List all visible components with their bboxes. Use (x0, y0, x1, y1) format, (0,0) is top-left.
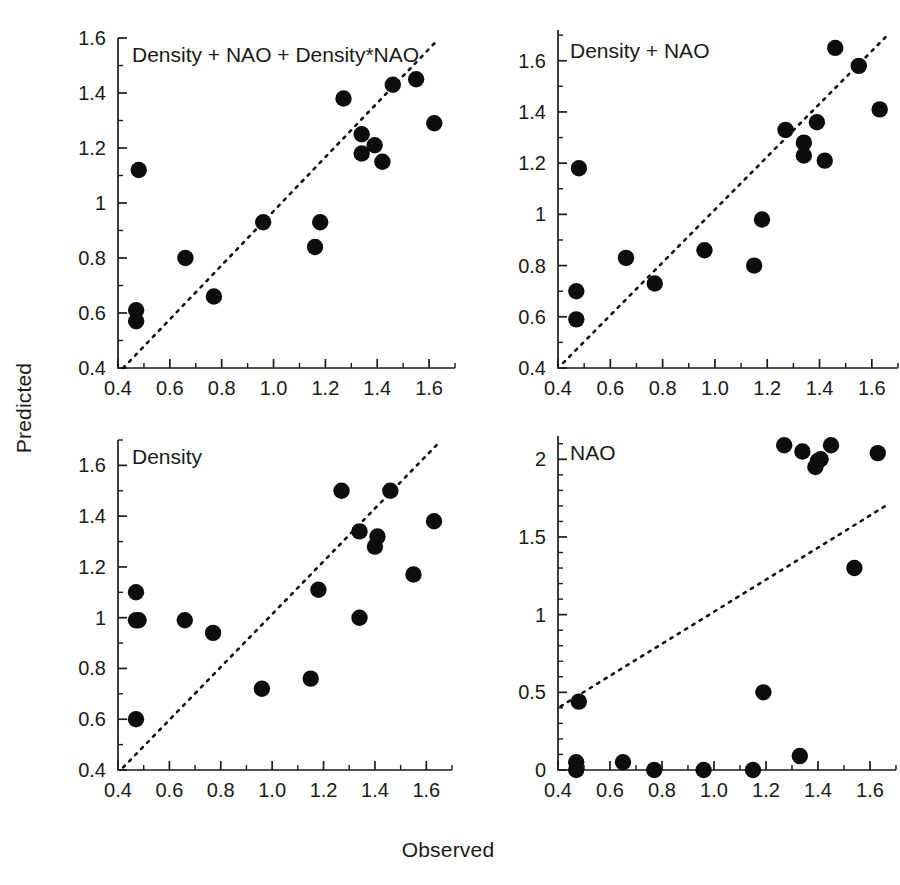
y-tick-label: 1.5 (518, 526, 546, 548)
panel-density: 0.40.60.81.01.21.41.60.40.60.811.21.41.6… (0, 412, 470, 842)
data-point (128, 711, 144, 727)
data-point (571, 693, 587, 709)
reference-line (561, 506, 886, 706)
y-tick-label: 1 (95, 192, 106, 214)
data-point (310, 582, 326, 598)
x-tick-label: 1.0 (260, 377, 288, 399)
x-tick-label: 1.0 (700, 779, 728, 801)
y-tick-label: 0.5 (518, 681, 546, 703)
y-tick-label: 2 (535, 448, 546, 470)
data-point (369, 528, 385, 544)
x-tick-label: 0.6 (596, 779, 624, 801)
data-point (817, 152, 833, 168)
data-point (755, 684, 771, 700)
reference-line (563, 35, 887, 363)
data-point (812, 451, 828, 467)
y-tick-label: 1.4 (518, 101, 546, 123)
data-point (776, 437, 792, 453)
y-tick-label: 1.2 (518, 152, 546, 174)
y-tick-label: 1 (535, 203, 546, 225)
y-tick-label: 0 (535, 759, 546, 781)
data-point (408, 71, 424, 87)
data-point (385, 77, 401, 93)
axis-lines (558, 30, 898, 368)
panel-title: Density + NAO (570, 39, 709, 62)
x-tick-label: 1.0 (701, 377, 729, 399)
axis-lines (118, 38, 455, 368)
data-point (618, 250, 634, 266)
data-point (353, 126, 369, 142)
reference-line (123, 44, 434, 369)
y-tick-label: 1.6 (518, 50, 546, 72)
data-point (809, 114, 825, 130)
data-point (205, 625, 221, 641)
data-point (568, 762, 584, 778)
x-tick-label: 0.4 (104, 377, 132, 399)
data-point (745, 762, 761, 778)
data-point (405, 566, 421, 582)
data-point (568, 311, 584, 327)
y-tick-label: 0.4 (78, 357, 106, 379)
x-tick-label: 0.6 (596, 377, 624, 399)
x-tick-label: 1.2 (752, 779, 780, 801)
data-point (333, 483, 349, 499)
x-tick-label: 0.6 (156, 377, 184, 399)
data-point (351, 609, 367, 625)
x-tick-label: 1.6 (858, 377, 886, 399)
x-tick-label: 0.4 (544, 377, 572, 399)
panel-density-plus-nao: 0.40.60.81.01.21.41.60.40.60.811.21.41.6… (440, 0, 900, 420)
y-tick-label: 0.4 (78, 759, 106, 781)
data-point (374, 154, 390, 170)
x-tick-label: 1.2 (753, 377, 781, 399)
data-point (307, 239, 323, 255)
data-point (827, 40, 843, 56)
y-tick-label: 0.8 (518, 255, 546, 277)
data-point (823, 437, 839, 453)
x-tick-label: 0.8 (208, 377, 236, 399)
x-tick-label: 1.4 (804, 779, 832, 801)
y-tick-label: 1.4 (78, 82, 106, 104)
x-tick-label: 1.4 (363, 377, 391, 399)
data-point (335, 90, 351, 106)
data-point (777, 122, 793, 138)
axis-lines (558, 436, 896, 770)
data-point (696, 242, 712, 258)
data-point (255, 214, 271, 230)
data-point (851, 58, 867, 74)
data-point (177, 250, 193, 266)
data-point (366, 137, 382, 153)
data-point (351, 523, 367, 539)
data-point (302, 670, 318, 686)
axis-lines (118, 440, 452, 770)
data-point (568, 283, 584, 299)
y-tick-label: 1 (535, 604, 546, 626)
y-tick-label: 1.2 (78, 556, 106, 578)
data-point (846, 560, 862, 576)
y-tick-label: 0.8 (78, 247, 106, 269)
x-tick-label: 1.6 (856, 779, 884, 801)
data-point (646, 762, 662, 778)
y-tick-label: 1.2 (78, 137, 106, 159)
data-point (792, 748, 808, 764)
x-tick-label: 1.6 (415, 377, 443, 399)
data-point (128, 584, 144, 600)
data-point (254, 681, 270, 697)
panel-density-nao-interaction: 0.40.60.81.01.21.41.60.40.60.811.21.41.6… (0, 0, 470, 420)
x-tick-label: 0.6 (155, 779, 183, 801)
x-tick-label: 1.4 (806, 377, 834, 399)
y-tick-label: 1.6 (78, 454, 106, 476)
y-tick-label: 0.6 (78, 708, 106, 730)
x-tick-label: 0.8 (649, 377, 677, 399)
data-point (177, 612, 193, 628)
x-tick-label: 1.2 (311, 377, 339, 399)
x-tick-label: 0.8 (648, 779, 676, 801)
data-point (794, 443, 810, 459)
data-point (647, 275, 663, 291)
data-point (130, 612, 146, 628)
panel-title: Density + NAO + Density*NAO (132, 43, 419, 66)
y-tick-label: 0.8 (78, 657, 106, 679)
x-tick-label: 0.4 (104, 779, 132, 801)
data-point (746, 257, 762, 273)
y-tick-label: 0.6 (518, 306, 546, 328)
